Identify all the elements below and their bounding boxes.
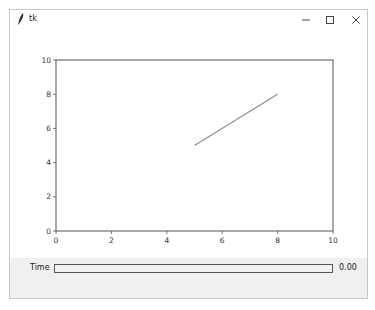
time-slider-value: 0.00: [339, 263, 357, 272]
x-tick-label: 4: [164, 236, 169, 245]
close-icon: [351, 15, 361, 25]
y-tick-label: 0: [46, 227, 51, 236]
minimize-icon: [301, 15, 311, 25]
line-chart: 02468100246810: [10, 30, 367, 258]
close-button[interactable]: [344, 10, 368, 30]
tk-window: tk 02468100246810 Time 0.00: [9, 9, 368, 299]
y-tick-label: 4: [46, 158, 51, 167]
time-slider[interactable]: [54, 264, 333, 273]
time-slider-label: Time: [30, 263, 50, 272]
x-tick-label: 0: [54, 236, 59, 245]
x-tick-label: 2: [109, 236, 114, 245]
x-tick-label: 10: [328, 236, 338, 245]
maximize-button[interactable]: [318, 10, 342, 30]
window-content: 02468100246810 Time 0.00: [10, 30, 367, 298]
data-line: [195, 94, 278, 145]
y-tick-label: 8: [46, 90, 51, 99]
minimize-button[interactable]: [294, 10, 318, 30]
window-title: tk: [29, 12, 37, 26]
y-tick-label: 6: [46, 124, 51, 133]
maximize-icon: [325, 15, 335, 25]
x-tick-label: 6: [220, 236, 225, 245]
y-tick-label: 10: [41, 56, 51, 65]
title-bar[interactable]: tk: [10, 10, 367, 30]
x-tick-label: 8: [275, 236, 280, 245]
matplotlib-figure: 02468100246810: [10, 30, 367, 258]
y-tick-label: 2: [46, 192, 51, 201]
tk-feather-icon: [17, 13, 25, 25]
